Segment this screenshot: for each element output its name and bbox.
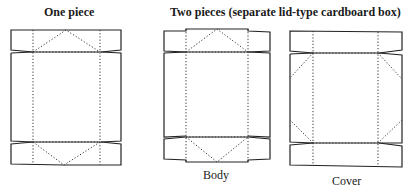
body-caption: Body [203,168,229,183]
one-piece-box-template [11,30,121,165]
cover-caption: Cover [332,174,361,189]
box-templates-diagram [0,0,412,192]
cover-box-template [290,31,402,167]
body-box-template [164,29,270,162]
